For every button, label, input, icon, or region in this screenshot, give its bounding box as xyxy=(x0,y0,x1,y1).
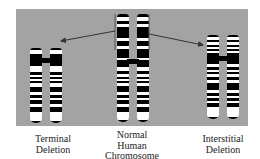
arrow-to-terminal-deletion-icon xyxy=(61,31,115,41)
normal-chromosome-label: Normal Human Chromosome xyxy=(97,130,167,159)
terminal-label-line-1: Terminal xyxy=(18,134,88,145)
interstitial-deletion-label: Interstitial Deletion xyxy=(188,134,258,155)
interstitial-label-line-2: Deletion xyxy=(188,145,258,156)
terminal-label-line-2: Deletion xyxy=(18,145,88,156)
normal-label-line-1: Normal xyxy=(97,130,167,141)
arrow-to-interstitial-deletion-icon xyxy=(149,34,203,45)
terminal-deletion-label: Terminal Deletion xyxy=(18,134,88,155)
normal-label-line-3: Chromosome xyxy=(97,151,167,159)
interstitial-label-line-1: Interstitial xyxy=(188,134,258,145)
